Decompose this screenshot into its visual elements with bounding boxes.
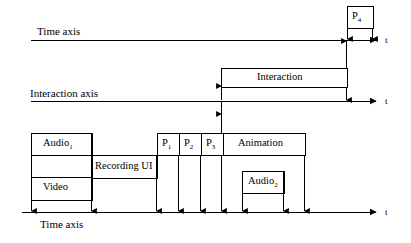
top-time-axis-tick-label: t xyxy=(385,36,388,45)
top-time-axis-label: Time axis xyxy=(37,26,80,37)
interaction-axis-label: Interaction axis xyxy=(30,88,98,99)
audio2-label: Audio2 xyxy=(248,176,278,189)
p1-label: P1 xyxy=(162,138,171,151)
audio1-label: Audio1 xyxy=(43,138,73,151)
p4-label: P4 xyxy=(352,11,361,24)
middle-empty-box xyxy=(31,155,92,177)
interaction-label: Interaction xyxy=(257,72,302,83)
recording-ui-label: Recording UI xyxy=(95,161,152,172)
p2-label: P2 xyxy=(184,138,193,151)
bottom-time-axis-tick-label: t xyxy=(385,208,388,217)
interaction-axis-tick-label: t xyxy=(385,97,388,106)
animation-label: Animation xyxy=(238,138,283,149)
p3-label: P3 xyxy=(206,138,215,151)
diagram-canvas: Time axis t P4 Interaction axis t Intera… xyxy=(0,0,411,243)
bottom-time-axis-label: Time axis xyxy=(40,219,83,230)
video-label: Video xyxy=(43,182,68,193)
